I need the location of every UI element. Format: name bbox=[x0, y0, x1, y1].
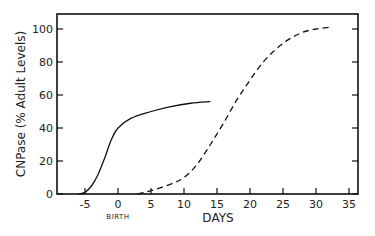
x-tick-label: 25 bbox=[276, 198, 290, 211]
series-solid-line bbox=[78, 102, 210, 194]
y-tick-label: 20 bbox=[39, 155, 53, 168]
data-series bbox=[78, 27, 329, 194]
plot-frame bbox=[57, 14, 358, 194]
x-tick-label: 20 bbox=[243, 198, 257, 211]
line-chart: 020406080100 -505101520253035 DAYS BIRTH… bbox=[0, 0, 375, 236]
y-tick-label: 60 bbox=[39, 89, 53, 102]
x-tick-label: 0 bbox=[115, 198, 122, 211]
y-tick-label: 100 bbox=[32, 23, 53, 36]
y-axis-title: CNPase (% Adult Levels) bbox=[14, 31, 28, 177]
x-tick-label: 30 bbox=[309, 198, 323, 211]
y-tick-label: 40 bbox=[39, 122, 53, 135]
x-tick-label: 35 bbox=[342, 198, 356, 211]
x-tick-label: 15 bbox=[210, 198, 224, 211]
birth-annotation: BIRTH bbox=[106, 213, 129, 221]
x-axis-title: DAYS bbox=[202, 211, 233, 225]
y-tick-label: 80 bbox=[39, 56, 53, 69]
x-tick-label: -5 bbox=[80, 198, 91, 211]
x-tick-label: 10 bbox=[177, 198, 191, 211]
series-dashed-line bbox=[138, 27, 329, 194]
x-axis-ticks: -505101520253035 bbox=[80, 188, 356, 211]
y-axis-ticks: 020406080100 bbox=[32, 23, 358, 201]
y-tick-label: 0 bbox=[46, 188, 53, 201]
x-tick-label: 5 bbox=[148, 198, 155, 211]
